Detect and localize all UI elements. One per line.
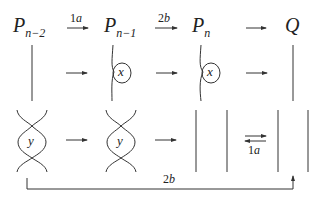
node-base: Q	[285, 14, 299, 36]
tangle-x-left-label: x	[118, 64, 124, 80]
node-base: P	[104, 14, 116, 36]
node-subscript: n−1	[116, 26, 136, 40]
arrow-bottom-long-label: 2b	[163, 172, 175, 187]
node-p-n-minus-1: Pn−1	[104, 14, 136, 37]
node-base: P	[192, 14, 204, 36]
node-subscript: n	[204, 26, 210, 40]
node-p-n: Pn	[192, 14, 210, 37]
node-base: P	[13, 14, 25, 36]
arrow-double-label: 1a	[248, 143, 260, 158]
arrow-top-2-label: 2b	[158, 11, 170, 26]
tangle-y-left-label: y	[28, 133, 34, 149]
diagram-canvas	[0, 0, 319, 197]
node-p-n-minus-2: Pn−2	[13, 14, 45, 37]
tangle-x-right-label: x	[207, 64, 213, 80]
node-q: Q	[285, 14, 299, 37]
arrow-top-1-label: 1a	[70, 11, 82, 26]
tangle-y-right-label: y	[117, 133, 123, 149]
arrow-bottom-long	[27, 176, 293, 189]
node-subscript: n−2	[25, 26, 45, 40]
